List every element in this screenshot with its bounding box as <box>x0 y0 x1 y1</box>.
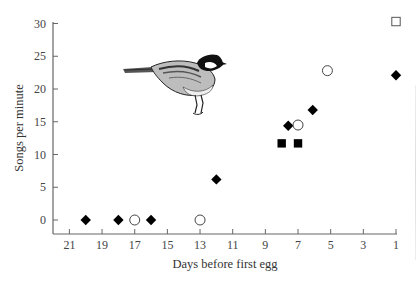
y-tick-label: 30 <box>34 17 46 31</box>
data-point-filled-square <box>277 139 285 147</box>
x-tick-label: 19 <box>96 238 108 252</box>
y-tick-label: 0 <box>40 213 46 227</box>
data-point-open-circle <box>322 66 332 76</box>
data-point-open-circle <box>293 120 303 130</box>
y-ticks: 051015202530 <box>34 17 58 228</box>
x-tick-label: 11 <box>227 238 239 252</box>
x-tick-label: 1 <box>393 238 399 252</box>
y-tick-label: 25 <box>34 49 46 63</box>
x-tick-label: 9 <box>262 238 268 252</box>
x-ticks: 21191715131197531 <box>63 229 399 252</box>
x-tick-label: 7 <box>295 238 301 252</box>
data-point-filled-diamond <box>391 70 401 80</box>
x-tick-label: 13 <box>194 238 206 252</box>
bird-illustration-icon <box>123 54 227 114</box>
x-axis-title: Days before first egg <box>172 257 278 271</box>
y-tick-label: 5 <box>40 180 46 194</box>
y-tick-label: 10 <box>34 148 46 162</box>
x-tick-label: 15 <box>161 238 173 252</box>
data-point-filled-diamond <box>146 215 156 225</box>
axes <box>53 22 397 234</box>
data-point-open-square <box>392 17 400 25</box>
x-tick-label: 21 <box>63 238 75 252</box>
data-point-filled-square <box>294 139 302 147</box>
data-point-filled-diamond <box>81 215 91 225</box>
data-point-filled-diamond <box>211 174 221 184</box>
x-tick-label: 3 <box>360 238 366 252</box>
y-axis-title: Songs per minute <box>12 84 26 172</box>
y-tick-label: 20 <box>34 82 46 96</box>
scan-artifact-line <box>415 85 416 260</box>
scatter-chart: 051015202530 21191715131197531 Days befo… <box>0 0 418 281</box>
data-point-open-circle <box>195 215 205 225</box>
data-points <box>81 17 402 225</box>
data-point-filled-diamond <box>113 215 123 225</box>
x-tick-label: 5 <box>328 238 334 252</box>
data-point-filled-diamond <box>283 120 293 130</box>
x-tick-label: 17 <box>129 238 141 252</box>
y-tick-label: 15 <box>34 115 46 129</box>
data-point-filled-diamond <box>308 105 318 115</box>
data-point-open-circle <box>130 215 140 225</box>
